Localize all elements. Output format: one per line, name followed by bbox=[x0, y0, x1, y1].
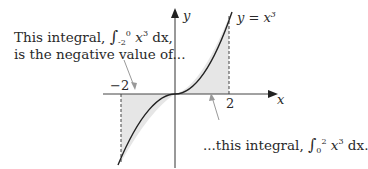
pointer-arrowhead-left bbox=[131, 82, 137, 90]
caption-right-prefix: ...this integral, bbox=[203, 137, 308, 153]
curve-label-text: y = x bbox=[237, 10, 271, 25]
differential: dx bbox=[152, 29, 168, 45]
punctuation: . bbox=[364, 137, 368, 153]
caption-left-line2: is the negative value of... bbox=[14, 46, 185, 62]
caption-left-prefix: This integral, bbox=[14, 29, 110, 45]
pointer-arrow-right bbox=[212, 97, 219, 120]
curve-label: y = x3 bbox=[237, 10, 276, 25]
integral-sign: ∫ bbox=[110, 27, 118, 46]
integrand-exponent: 3 bbox=[338, 137, 343, 146]
integral-upper-bound: 0 bbox=[126, 29, 131, 38]
curve-label-exponent: 3 bbox=[271, 10, 276, 19]
x-axis-label: x bbox=[277, 92, 284, 107]
shaded-region-negative bbox=[121, 94, 175, 162]
caption-right: ...this integral, ∫02 x3 dx. bbox=[203, 134, 368, 159]
tick-label-2: 2 bbox=[226, 96, 234, 111]
integrand: x bbox=[135, 29, 143, 45]
y-axis-label: y bbox=[183, 8, 190, 23]
y-axis-arrowhead bbox=[171, 8, 179, 18]
integrand-exponent: 3 bbox=[143, 29, 148, 38]
differential: dx bbox=[348, 137, 364, 153]
integral-lower-bound: 0 bbox=[316, 146, 321, 155]
integral-upper-bound: 2 bbox=[321, 137, 326, 146]
punctuation: , bbox=[169, 29, 173, 45]
tick-label-neg2: −2 bbox=[110, 78, 129, 93]
